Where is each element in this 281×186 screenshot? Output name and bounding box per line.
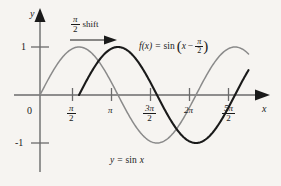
y-tick-label-1: 1 (21, 42, 26, 52)
x-tick-label-3pi-over-2: 3π2 (143, 104, 156, 123)
x-tick-label-pi: π (108, 106, 113, 115)
x-tick-label-5pi-over-2: 5π2 (222, 104, 235, 123)
shift-label-denominator: 2 (71, 25, 80, 34)
function-label-lhs: f(x) (139, 41, 152, 51)
y-axis-label: y (30, 9, 34, 19)
x-axis-arrowhead (255, 90, 270, 101)
function-label-arg-minus: − (188, 41, 193, 51)
shift-label-text: shift (83, 19, 99, 29)
shift-arrow-head (104, 36, 117, 45)
base-curve-label-x: x (140, 155, 144, 165)
x-axis-label: x (262, 104, 266, 114)
x-tick-label-2pi: 2π (184, 106, 193, 115)
x-tick-label-pi-over-2-den: 2 (67, 114, 76, 123)
function-label-fn: sin (164, 41, 175, 51)
function-label-equals: = (155, 41, 160, 51)
base-curve-label-fn: sin (126, 155, 137, 165)
function-label-arg-x: x (182, 41, 186, 51)
y-tick-label-neg1: -1 (15, 138, 23, 148)
base-curve-label-y: y (110, 155, 114, 165)
x-tick-label-3pi-over-2-den: 2 (143, 114, 156, 123)
y-axis-arrowhead (35, 8, 46, 22)
shift-annotation-label: π2shift (71, 15, 99, 34)
base-curve-label-equals: = (117, 155, 122, 165)
function-label: f(x)=sin(x−π2) (139, 38, 208, 55)
base-curve-label: y=sinx (110, 156, 144, 166)
origin-label: 0 (27, 106, 32, 116)
x-tick-label-5pi-over-2-den: 2 (222, 114, 235, 123)
function-label-arg-den: 2 (195, 47, 203, 55)
x-tick-label-pi-over-2: π2 (67, 104, 76, 123)
function-label-close-paren: ) (203, 39, 208, 54)
